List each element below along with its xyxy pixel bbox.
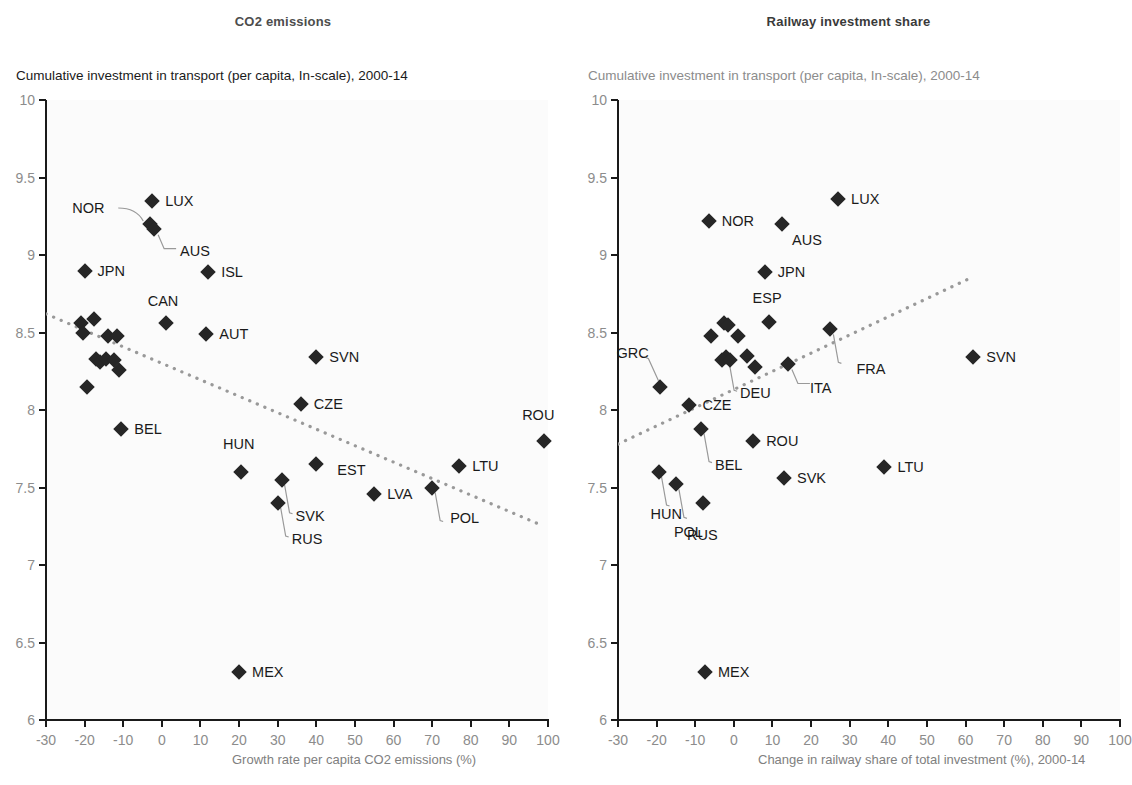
data-point-label: CAN [148,293,179,309]
x-axis-tick-label: -20 [646,732,666,748]
y-axis-tick-label: 7 [599,557,607,573]
x-axis-tick [470,720,472,727]
x-axis-line [617,719,1121,721]
x-axis-tick-label: -20 [74,732,94,748]
x-axis-tick [694,720,696,727]
data-point-label: LTU [472,458,498,474]
x-axis-tick [926,720,928,727]
data-point-label: DEU [740,385,771,401]
y-axis-tick-label: 8.5 [588,325,607,341]
x-axis-tick [238,720,240,727]
y-axis-tick-label: 6 [27,712,35,728]
x-axis-tick [277,720,279,727]
data-point-label: BEL [715,457,742,473]
data-point-label: ROU [522,407,554,423]
x-axis-tick-label: 30 [842,732,858,748]
plot-area-railway: 109.598.587.576.56-30-20-100102030405060… [618,100,1120,720]
data-point-label: SVN [986,349,1016,365]
x-axis-tick [887,720,889,727]
x-axis-tick-label: 90 [502,732,518,748]
x-axis-tick-label: -30 [36,732,56,748]
y-axis-tick [39,177,46,179]
x-axis-tick-label: -30 [608,732,628,748]
x-axis-tick [122,720,124,727]
x-axis-tick-label: -10 [113,732,133,748]
data-point-label: AUS [792,232,822,248]
y-axis-tick-label: 7.5 [588,480,607,496]
data-point-label: CZE [702,397,731,413]
x-axis-tick [810,720,812,727]
x-axis-tick-label: 90 [1074,732,1090,748]
x-axis-tick-label: 0 [158,732,166,748]
x-axis-tick [84,720,86,727]
x-axis-tick [849,720,851,727]
y-axis-tick-label: 7 [27,557,35,573]
y-axis-tick [39,409,46,411]
data-point-label: SVK [296,508,325,524]
data-point-label: ITA [810,380,831,396]
data-point-label: CZE [314,396,343,412]
x-axis-tick-label: 0 [730,732,738,748]
y-axis-tick-label: 9 [27,247,35,263]
panel-title-railway: Railway investment share [566,14,1131,29]
x-axis-tick [393,720,395,727]
data-point-label: SVK [797,470,826,486]
x-axis-tick-label: 40 [309,732,325,748]
data-point-label: HUN [651,506,682,522]
x-axis-line [45,719,549,721]
y-axis-tick-label: 6.5 [588,635,607,651]
data-point-label: FRA [856,361,885,377]
data-point-label: LUX [165,193,193,209]
x-axis-tick-label: 50 [347,732,363,748]
data-point-label: NOR [72,200,104,216]
x-axis-tick [315,720,317,727]
y-axis-tick [39,332,46,334]
x-axis-tick [1003,720,1005,727]
y-axis-tick-label: 6.5 [16,635,35,651]
x-axis-tick-label: 70 [424,732,440,748]
x-axis-tick [1042,720,1044,727]
plot-area-co2: 109.598.587.576.56-30-20-100102030405060… [46,100,548,720]
x-axis-tick-label: 80 [463,732,479,748]
data-point-label: ESP [753,290,782,306]
y-axis-tick-label: 10 [19,92,35,108]
x-axis-tick [161,720,163,727]
data-point-label: ROU [766,433,798,449]
y-axis-tick-label: 7.5 [16,480,35,496]
y-axis-tick [611,409,618,411]
y-axis-tick-label: 9 [599,247,607,263]
x-axis-tick-label: 20 [231,732,247,748]
x-axis-tick-label: -10 [685,732,705,748]
y-axis-tick [39,254,46,256]
y-axis-tick [611,564,618,566]
data-point-label: LUX [851,191,879,207]
y-axis-tick-label: 8 [599,402,607,418]
data-point-label: GRC [616,345,648,361]
data-point-label: LVA [387,486,412,502]
x-axis-tick [199,720,201,727]
y-axis-tick [611,332,618,334]
y-axis-tick-label: 8 [27,402,35,418]
x-axis-tick-label: 100 [1108,732,1131,748]
data-point-label: RUS [292,531,323,547]
x-axis-tick-label: 80 [1035,732,1051,748]
y-axis-tick-label: 8.5 [16,325,35,341]
x-axis-tick-label: 100 [536,732,559,748]
y-axis-tick [39,99,46,101]
y-axis-title-co2: Cumulative investment in transport (per … [16,68,408,83]
panel-railway-investment-share: Railway investment share Cumulative inve… [566,0,1131,785]
x-axis-tick-label: 40 [881,732,897,748]
x-axis-tick [1080,720,1082,727]
x-axis-tick [354,720,356,727]
data-point-label: AUS [180,243,210,259]
data-point-label: NOR [722,213,754,229]
x-axis-tick [656,720,658,727]
data-point-label: AUT [219,326,248,342]
data-point-label: MEX [252,664,283,680]
y-axis-tick [39,642,46,644]
data-point-label: EST [337,462,365,478]
x-axis-title-co2: Growth rate per capita CO2 emissions (%) [232,752,476,767]
y-axis-tick-label: 10 [591,92,607,108]
x-axis-tick [431,720,433,727]
x-axis-tick [45,720,47,727]
